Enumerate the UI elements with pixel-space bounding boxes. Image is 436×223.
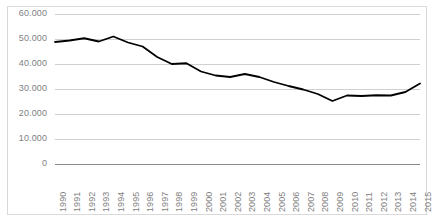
y-tick-label: 50.000 <box>19 34 47 43</box>
y-tick-label: 10.000 <box>19 134 47 143</box>
y-axis-tick-labels: 010.00020.00030.00040.00050.00060.000 <box>0 0 47 223</box>
x-tick-label: 1991 <box>73 192 82 212</box>
x-tick-label: 1993 <box>102 192 111 212</box>
x-tick-label: 2000 <box>205 192 214 212</box>
x-tick-label: 2002 <box>234 192 243 212</box>
x-tick-label: 2006 <box>292 192 301 212</box>
y-tick-label: 30.000 <box>19 84 47 93</box>
y-tick-label: 40.000 <box>19 59 47 68</box>
x-tick-label: 2011 <box>365 192 374 212</box>
y-tick-label: 20.000 <box>19 109 47 118</box>
x-tick-label: 2003 <box>248 192 257 212</box>
x-tick-label: 2014 <box>409 192 418 212</box>
x-tick-label: 2013 <box>394 192 403 212</box>
x-tick-label: 1996 <box>146 192 155 212</box>
x-tick-label: 1997 <box>161 192 170 212</box>
y-tick-label: 60.000 <box>19 9 47 18</box>
x-tick-label: 2015 <box>424 192 433 212</box>
x-tick-label: 1999 <box>190 192 199 212</box>
x-tick-label: 1995 <box>132 192 141 212</box>
x-tick-label: 2009 <box>336 192 345 212</box>
y-tick-label: 0 <box>42 159 47 168</box>
x-tick-label: 1998 <box>175 192 184 212</box>
line-chart: 010.00020.00030.00040.00050.00060.000 19… <box>0 0 436 223</box>
x-tick-label: 1990 <box>59 192 68 212</box>
x-tick-label: 2004 <box>263 192 272 212</box>
x-tick-label: 2010 <box>351 192 360 212</box>
series-polyline <box>55 37 420 102</box>
series-line <box>55 14 420 164</box>
x-tick-label: 2001 <box>219 192 228 212</box>
axis-line-zero <box>55 164 420 165</box>
x-tick-label: 1994 <box>117 192 126 212</box>
x-tick-label: 2012 <box>380 192 389 212</box>
x-tick-label: 1992 <box>88 192 97 212</box>
x-tick-label: 2007 <box>307 192 316 212</box>
x-axis-tick-labels: 1990199119921993199419951996199719981999… <box>55 168 420 218</box>
x-tick-label: 2008 <box>321 192 330 212</box>
x-tick-label: 2005 <box>278 192 287 212</box>
plot-area <box>55 14 420 164</box>
